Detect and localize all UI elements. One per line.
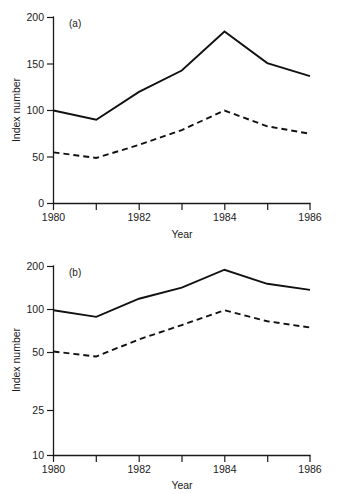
panel-a: 200 150 100 50 0 1980 1982 1984 1986 Ind… [10, 11, 322, 240]
panel-b-dashed-series [54, 310, 311, 356]
panel-a-xtick-1980: 1980 [42, 211, 66, 223]
figure-container: 200 150 100 50 0 1980 1982 1984 1986 Ind… [0, 0, 338, 494]
panel-a-ytick-0: 0 [38, 197, 44, 209]
panel-a-ytick-100: 100 [26, 104, 44, 116]
panel-b-solid-series [54, 270, 311, 317]
panel-b: 200 100 50 25 10 1980 1982 1984 1986 Ind… [10, 260, 322, 491]
panel-a-x-axis-title: Year [171, 228, 193, 240]
panel-a-solid-series [54, 31, 311, 119]
panel-a-y-axis-title: Index number [10, 77, 22, 142]
panel-a-y-ticks [47, 18, 54, 204]
panel-b-ytick-200: 200 [26, 260, 44, 272]
panel-a-ytick-150: 150 [26, 58, 44, 70]
figure-svg: 200 150 100 50 0 1980 1982 1984 1986 Ind… [0, 0, 338, 494]
panel-b-y-axis-title: Index number [10, 327, 22, 392]
panel-b-xtick-1982: 1982 [128, 463, 152, 475]
panel-b-label: (b) [69, 267, 81, 278]
panel-a-xtick-1986: 1986 [298, 211, 322, 223]
panel-a-ytick-200: 200 [26, 11, 44, 23]
panel-a-xtick-1982: 1982 [128, 211, 152, 223]
panel-b-ytick-10: 10 [32, 449, 44, 461]
panel-b-ytick-25: 25 [32, 404, 44, 416]
panel-a-dashed-series [54, 111, 311, 158]
panel-a-label: (a) [69, 18, 81, 29]
panel-b-xtick-1984: 1984 [213, 463, 237, 475]
panel-b-x-ticks [54, 456, 311, 463]
panel-a-ytick-50: 50 [32, 151, 44, 163]
panel-a-xtick-1984: 1984 [213, 211, 237, 223]
panel-b-xtick-1986: 1986 [298, 463, 322, 475]
panel-b-ytick-50: 50 [32, 346, 44, 358]
panel-b-x-axis-title: Year [171, 479, 193, 491]
panel-a-x-ticks [54, 204, 311, 211]
panel-b-xtick-1980: 1980 [42, 463, 66, 475]
panel-b-y-ticks [47, 267, 54, 456]
panel-b-ytick-100: 100 [26, 303, 44, 315]
